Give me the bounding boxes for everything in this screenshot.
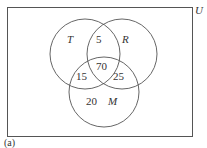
region-r-m: 25 bbox=[113, 70, 125, 82]
region-t-r-m: 70 bbox=[96, 60, 108, 72]
region-m-only: 20 bbox=[86, 95, 98, 107]
universe-label: U bbox=[195, 4, 204, 16]
set-r-label: R bbox=[121, 33, 129, 45]
region-t-m: 15 bbox=[76, 70, 88, 82]
set-m-label: M bbox=[107, 95, 118, 107]
caption: (a) bbox=[4, 137, 15, 148]
venn-diagram: U T R M 5 70 15 25 20 (a) bbox=[0, 0, 207, 148]
set-t-label: T bbox=[67, 33, 74, 45]
region-t-r: 5 bbox=[96, 33, 102, 45]
